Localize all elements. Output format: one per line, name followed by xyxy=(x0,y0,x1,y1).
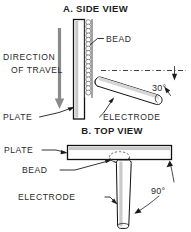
top-view-electrode-label: ELECTRODE xyxy=(18,192,75,202)
top-view-plate-leader xyxy=(42,150,68,154)
top-view-bead-leader xyxy=(60,159,112,170)
top-view-electrode xyxy=(116,160,131,228)
side-view-plate xyxy=(74,20,85,120)
top-view-bead-label: BEAD xyxy=(22,165,48,175)
side-view-bead xyxy=(85,20,93,98)
top-view-title: B. TOP VIEW xyxy=(81,125,143,136)
direction-of-travel-label-line2: OF TRAVEL xyxy=(11,65,63,75)
direction-of-travel-label-line1: DIRECTION xyxy=(3,52,55,62)
side-view-plate-label: PLATE xyxy=(3,112,32,122)
side-view-title: A. SIDE VIEW xyxy=(63,3,128,14)
figure-canvas: A. SIDE VIEW xyxy=(0,0,191,232)
side-view-electrode-label: ELECTRODE xyxy=(103,112,160,122)
panel-side-view: A. SIDE VIEW xyxy=(3,3,186,122)
side-view-bead-label: BEAD xyxy=(106,34,132,44)
top-view-plate xyxy=(68,146,172,160)
side-view-bead-leader xyxy=(91,39,104,45)
top-view-electrode-leader xyxy=(105,197,118,204)
panel-top-view: B. TOP VIEW PLATE BEAD xyxy=(4,125,174,228)
top-view-plate-label: PLATE xyxy=(4,145,33,155)
direction-arrowhead xyxy=(55,99,64,110)
side-view-angle-value: 30° xyxy=(152,83,167,93)
welding-electrode-angle-figure: A. SIDE VIEW xyxy=(0,0,191,232)
top-view-angle-value: 90° xyxy=(151,186,166,196)
side-view-plate-leader xyxy=(40,107,75,117)
bead-ripples xyxy=(86,20,91,95)
